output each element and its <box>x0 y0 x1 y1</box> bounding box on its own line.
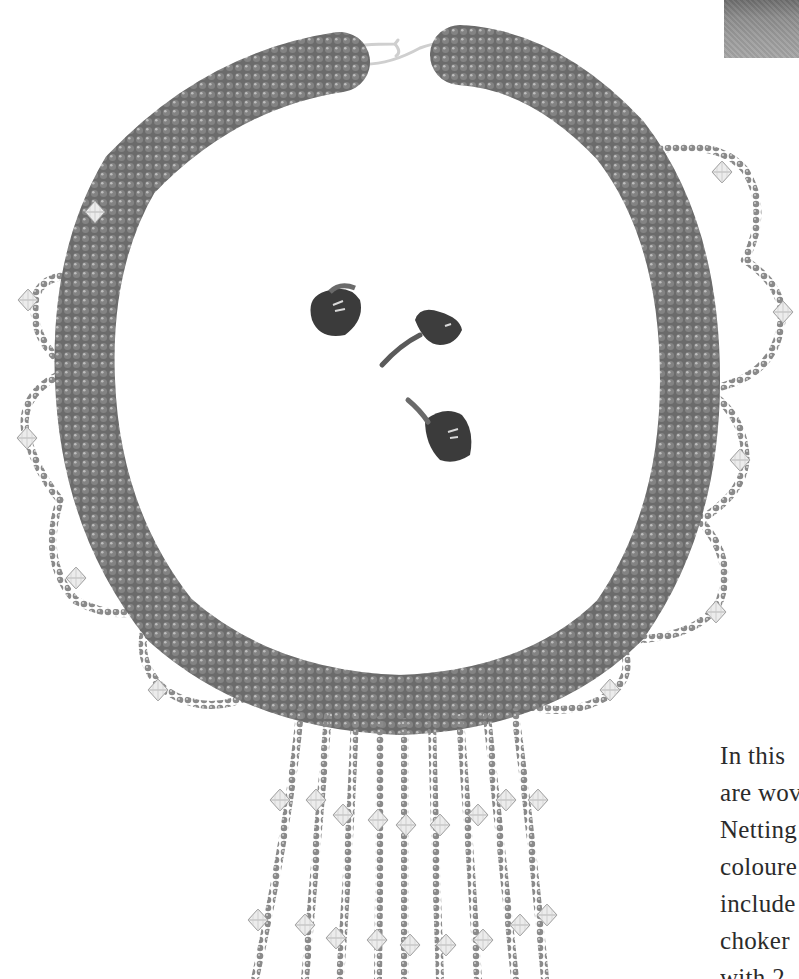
body-text-line: In this <box>720 737 799 774</box>
body-text-column: In this are wov Netting coloure include … <box>720 737 799 979</box>
flower-3 <box>408 400 471 462</box>
body-text-line: include <box>720 885 799 922</box>
flower-2 <box>382 310 462 365</box>
flower-1 <box>310 286 361 336</box>
necklace-photo <box>0 0 799 979</box>
fringe-strands <box>255 712 545 979</box>
body-text-line: Netting <box>720 811 799 848</box>
body-text-line: with 2 <box>720 959 799 979</box>
flowers <box>310 286 471 462</box>
body-text-line: are wov <box>720 774 799 811</box>
body-text-line: choker <box>720 922 799 959</box>
book-page: In this are wov Netting coloure include … <box>0 0 799 979</box>
body-text-line: coloure <box>720 848 799 885</box>
